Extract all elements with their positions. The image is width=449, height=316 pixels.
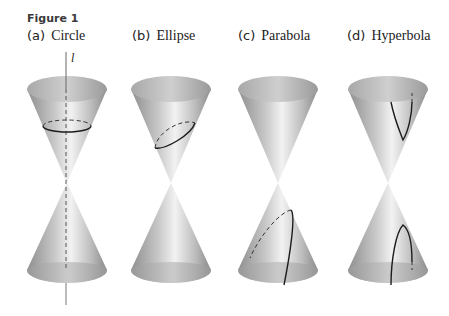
cone-circle <box>27 52 107 305</box>
cone-parabola <box>238 76 318 285</box>
conic-sections-diagram: l <box>0 0 449 316</box>
cone-ellipse <box>131 76 211 283</box>
cone-hyperbola <box>348 76 428 285</box>
axis-label: l <box>71 51 75 65</box>
